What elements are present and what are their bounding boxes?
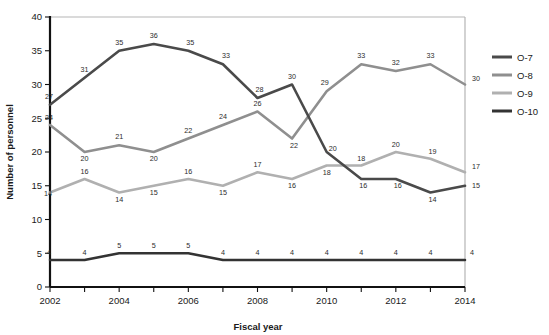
data-label: 15 bbox=[219, 188, 227, 197]
y-axis-tick-label: 25 bbox=[31, 113, 42, 124]
data-label: 5 bbox=[152, 241, 156, 250]
data-label: 21 bbox=[115, 132, 123, 141]
y-axis-tick-label: 40 bbox=[31, 11, 42, 22]
x-axis-tick-label: 2012 bbox=[385, 295, 406, 306]
data-label: 4 bbox=[47, 248, 51, 257]
data-label: 22 bbox=[184, 126, 192, 135]
data-label: 4 bbox=[359, 248, 363, 257]
data-label: 16 bbox=[184, 167, 192, 176]
legend-label-o-7: O-7 bbox=[517, 52, 533, 63]
data-label: 4 bbox=[428, 248, 432, 257]
data-label: 4 bbox=[83, 248, 87, 257]
y-axis-tick-label: 35 bbox=[31, 45, 42, 56]
data-label: 14 bbox=[115, 195, 123, 204]
data-label: 31 bbox=[81, 65, 89, 74]
x-axis-tick-label: 2008 bbox=[247, 295, 268, 306]
legend-label-o-9: O-9 bbox=[517, 88, 533, 99]
chart-container: 0510152025303540 20022004200620082010201… bbox=[0, 0, 549, 335]
data-label: 30 bbox=[288, 72, 296, 81]
data-label: 33 bbox=[222, 51, 230, 60]
x-axis-tick-label: 2002 bbox=[39, 295, 60, 306]
x-axis-tick-label: 2006 bbox=[178, 295, 199, 306]
y-axis-tick-label: 0 bbox=[37, 281, 42, 292]
y-axis-tick-label: 30 bbox=[31, 79, 42, 90]
data-label: 5 bbox=[117, 241, 121, 250]
data-label: 36 bbox=[150, 31, 158, 40]
y-axis-tick-label: 15 bbox=[31, 180, 42, 191]
data-label: 17 bbox=[254, 160, 262, 169]
data-label: 14 bbox=[44, 189, 52, 198]
data-label: 16 bbox=[81, 167, 89, 176]
data-label: 20 bbox=[329, 144, 337, 153]
data-label: 4 bbox=[256, 248, 260, 257]
data-label: 15 bbox=[472, 181, 480, 190]
x-axis-tick-label: 2010 bbox=[316, 295, 337, 306]
data-label: 20 bbox=[81, 154, 89, 163]
data-label: 24 bbox=[219, 112, 227, 121]
data-label: 16 bbox=[359, 181, 367, 190]
data-label: 16 bbox=[288, 181, 296, 190]
data-label: 35 bbox=[186, 38, 194, 47]
data-label: 35 bbox=[115, 38, 123, 47]
data-label: 4 bbox=[290, 248, 294, 257]
data-label: 5 bbox=[186, 241, 190, 250]
data-label: 26 bbox=[254, 99, 262, 108]
data-label: 22 bbox=[290, 141, 298, 150]
data-label: 17 bbox=[472, 162, 480, 171]
x-axis-title: Fiscal year bbox=[233, 321, 282, 332]
data-label: 29 bbox=[321, 78, 329, 87]
data-label: 32 bbox=[392, 58, 400, 67]
data-label: 4 bbox=[394, 248, 398, 257]
data-label: 30 bbox=[472, 74, 480, 83]
data-label: 18 bbox=[357, 154, 365, 163]
line-chart: 0510152025303540 20022004200620082010201… bbox=[0, 0, 549, 335]
data-label: 18 bbox=[323, 168, 331, 177]
data-label: 20 bbox=[392, 140, 400, 149]
data-label: 19 bbox=[428, 147, 436, 156]
y-axis-tick-label: 10 bbox=[31, 214, 42, 225]
x-axis-tick-label: 2004 bbox=[109, 295, 130, 306]
data-label: 27 bbox=[45, 92, 53, 101]
legend-label-o-10: O-10 bbox=[517, 106, 538, 117]
y-axis-tick-label: 20 bbox=[31, 146, 42, 157]
data-label: 4 bbox=[470, 248, 474, 257]
y-axis-tick-label: 5 bbox=[37, 248, 42, 259]
y-axis-title: Number of personnel bbox=[4, 104, 15, 200]
data-label: 16 bbox=[394, 181, 402, 190]
data-label: 33 bbox=[426, 51, 434, 60]
data-label: 4 bbox=[221, 248, 225, 257]
data-label: 15 bbox=[150, 188, 158, 197]
data-label: 20 bbox=[150, 154, 158, 163]
data-label: 14 bbox=[428, 195, 436, 204]
data-label: 4 bbox=[325, 248, 329, 257]
x-axis-tick-label: 2014 bbox=[454, 295, 475, 306]
legend-label-o-8: O-8 bbox=[517, 70, 533, 81]
data-label: 33 bbox=[357, 51, 365, 60]
data-label: 28 bbox=[256, 85, 264, 94]
data-label: 24 bbox=[45, 113, 53, 122]
